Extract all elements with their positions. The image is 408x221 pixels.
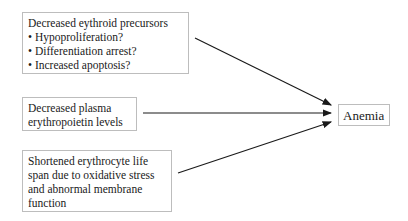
cause-bullet: • Differentiation arrest?: [28, 44, 183, 58]
cause-line: erythropoietin levels: [28, 115, 131, 129]
cause-line: span due to oxidative stress: [28, 168, 166, 182]
outcome-label: Anemia: [343, 108, 385, 123]
arrow-lifespan-to-anemia: [178, 122, 331, 173]
arrow-precursors-to-anemia: [195, 38, 331, 105]
cause-box-erythropoietin: Decreased plasma erythropoietin levels: [22, 97, 137, 131]
cause-line: and abnormal membrane: [28, 182, 166, 196]
cause-box-erythroid-precursors: Decreased eythroid precursors • Hypoprol…: [22, 12, 189, 74]
cause-bullet: • Hypoproliferation?: [28, 30, 183, 44]
cause-line: Shortened erythrocyte life: [28, 154, 166, 168]
cause-line: Decreased plasma: [28, 101, 131, 115]
cause-box-erythrocyte-lifespan: Shortened erythrocyte life span due to o…: [22, 150, 172, 212]
cause-title: Decreased eythroid precursors: [28, 16, 183, 30]
outcome-box-anemia: Anemia: [338, 104, 390, 126]
cause-bullet: • Increased apoptosis?: [28, 58, 183, 72]
cause-line: function: [28, 196, 166, 210]
